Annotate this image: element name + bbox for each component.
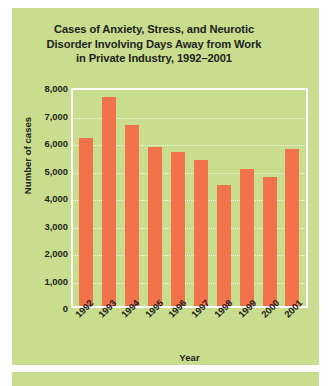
chart-title-line-1: Cases of Anxiety, Stress, and Neurotic [14,22,294,37]
bar-1998[interactable] [217,185,231,306]
y-tick-label: 8,000 [24,83,68,94]
bar-1992[interactable] [79,138,93,306]
x-tick-1995: 1995 [148,310,162,354]
bar-1996[interactable] [171,152,185,306]
plot-area [71,88,308,308]
y-tick-label: 1,000 [24,275,68,286]
bar-1993[interactable] [102,97,116,306]
x-tick-1993: 1993 [101,310,115,354]
x-tick-1996: 1996 [171,310,185,354]
x-axis-tick-labels: 1992199319941995199619971998199920002001 [71,310,308,354]
x-tick-1999: 1999 [241,310,255,354]
panel-bottom-strip [12,372,319,386]
chart-page: Cases of Anxiety, Stress, and Neurotic D… [0,0,331,386]
chart-title-line-2: Disorder Involving Days Away from Work [14,37,294,52]
x-axis-title: Year [71,352,308,363]
y-tick-label: 0 [24,303,68,314]
bar-2000[interactable] [263,177,277,306]
bar-2001[interactable] [285,149,299,306]
y-tick-label: 2,000 [24,248,68,259]
x-tick-2000: 2000 [264,310,278,354]
bar-1995[interactable] [148,147,162,307]
bar-1997[interactable] [194,160,208,306]
y-axis-title: Number of cases [22,101,33,211]
x-tick-1998: 1998 [217,310,231,354]
x-tick-2001: 2001 [287,310,301,354]
bar-1994[interactable] [125,125,139,307]
chart-title-line-3: in Private Industry, 1992–2001 [14,51,294,66]
bar-series [73,90,306,306]
x-tick-1994: 1994 [124,310,138,354]
y-tick-label: 3,000 [24,220,68,231]
chart-title: Cases of Anxiety, Stress, and Neurotic D… [14,22,294,66]
x-tick-1997: 1997 [194,310,208,354]
x-tick-1992: 1992 [78,310,92,354]
bar-1999[interactable] [240,169,254,307]
